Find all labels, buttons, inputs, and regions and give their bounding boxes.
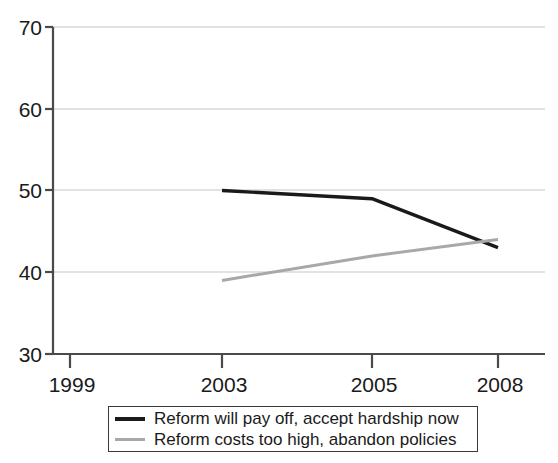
x-tick-label-2003: 2003	[201, 373, 248, 396]
x-tick-label-2008: 2008	[477, 373, 524, 396]
line-chart: 70 60 50 40 30 1999 2003 2005 2008 Refor…	[0, 0, 558, 463]
x-tick-label-1999: 1999	[49, 373, 96, 396]
x-tick-label-2005: 2005	[351, 373, 398, 396]
legend-entry-reform-costs-too-high: Reform costs too high, abandon policies	[115, 429, 471, 450]
legend-label-reform-costs-too-high: Reform costs too high, abandon policies	[154, 430, 456, 449]
chart-legend: Reform will pay off, accept hardship now…	[108, 406, 478, 452]
series-line-reform-costs-too-high	[222, 240, 498, 281]
legend-swatch-black-line-icon	[115, 417, 145, 421]
legend-swatch-gray-line-icon	[115, 438, 145, 441]
y-tick-label-40: 40	[19, 261, 42, 284]
legend-label-reform-will-pay-off: Reform will pay off, accept hardship now	[154, 409, 459, 428]
x-tick-labels: 1999 2003 2005 2008	[49, 373, 524, 396]
y-tick-label-50: 50	[19, 179, 42, 202]
y-tick-label-30: 30	[19, 343, 42, 366]
data-series	[222, 191, 498, 281]
y-tick-labels: 70 60 50 40 30	[19, 16, 42, 366]
legend-entry-reform-will-pay-off: Reform will pay off, accept hardship now	[115, 408, 471, 429]
y-tick-label-70: 70	[19, 16, 42, 39]
y-tick-label-60: 60	[19, 98, 42, 121]
y-tick-marks	[45, 27, 53, 354]
chart-canvas: 70 60 50 40 30 1999 2003 2005 2008	[0, 0, 558, 463]
gridlines	[53, 27, 545, 354]
series-line-reform-will-pay-off	[222, 191, 498, 248]
x-tick-marks	[70, 354, 498, 368]
